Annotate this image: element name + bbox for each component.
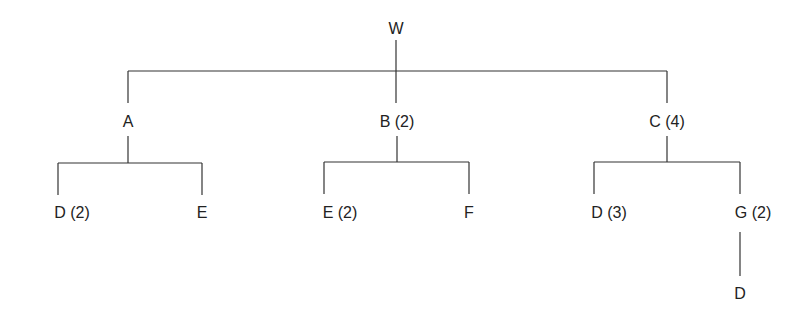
node-a-d: D (2) (54, 205, 90, 221)
node-b: B (2) (380, 114, 415, 130)
node-a-e: E (197, 205, 208, 221)
node-c-g: G (2) (735, 205, 771, 221)
node-b-e: E (2) (323, 205, 358, 221)
node-b-f: F (464, 205, 474, 221)
node-g-d: D (734, 286, 746, 302)
node-c: C (4) (649, 114, 685, 130)
tree-connectors (0, 0, 804, 318)
node-c-d: D (3) (591, 205, 627, 221)
node-a: A (123, 114, 134, 130)
node-w: W (388, 21, 403, 37)
